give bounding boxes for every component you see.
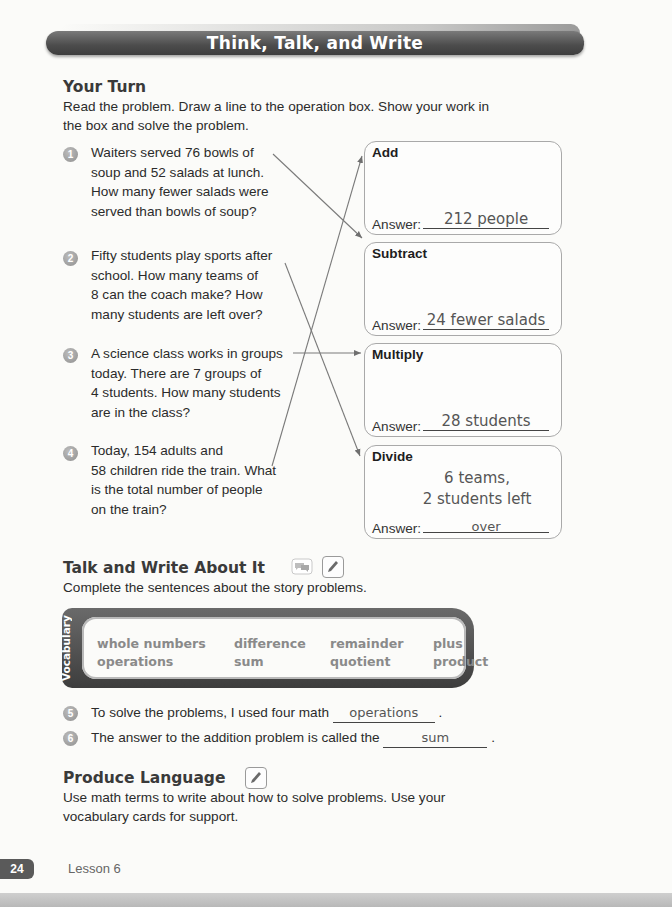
operation-title: Add: [372, 145, 398, 160]
line-problem-4-to-add: [272, 156, 362, 466]
sentence-5-number: 5: [63, 706, 78, 721]
answer-value-line-3: over: [423, 519, 549, 534]
answer-line: [423, 430, 549, 431]
answer-line: [423, 329, 549, 330]
vocab-word: quotient: [330, 654, 391, 669]
produce-language-heading: Produce Language: [63, 769, 225, 787]
operation-box-add[interactable]: Add Answer: 212 people: [364, 141, 562, 235]
page-number: 24: [0, 859, 34, 879]
produce-language-line-2: vocabulary cards for support.: [63, 807, 238, 826]
vocab-word: plus: [433, 636, 463, 651]
answer-value: 24 fewer salads: [423, 311, 549, 329]
line-problem-1-to-subtract: [273, 154, 362, 238]
answer-value-line-1: 6 teams,: [405, 469, 549, 487]
bottom-page-edge: [0, 893, 672, 907]
pencil-icon: [245, 767, 267, 789]
sentence-6: The answer to the addition problem is ca…: [91, 728, 495, 748]
answer-label: Answer:: [372, 318, 421, 333]
operation-box-divide[interactable]: Divide 6 teams, 2 students left Answer: …: [364, 445, 562, 539]
vocab-word: remainder: [330, 636, 403, 651]
operation-title: Divide: [372, 449, 413, 464]
operation-title: Multiply: [372, 347, 423, 362]
answer-label: Answer:: [372, 217, 421, 232]
pencil-icon: [322, 556, 344, 578]
vocab-word: product: [433, 654, 488, 669]
answer-line: [423, 228, 549, 229]
produce-language-line-1: Use math terms to write about how to sol…: [63, 788, 445, 807]
lesson-label: Lesson 6: [68, 861, 121, 876]
talk-bubbles-icon: [291, 557, 313, 575]
vocab-word: sum: [234, 654, 264, 669]
answer-value: 28 students: [423, 412, 549, 430]
talk-write-instructions: Complete the sentences about the story p…: [63, 578, 367, 597]
vocab-word: difference: [234, 636, 306, 651]
operation-title: Subtract: [372, 246, 427, 261]
sentence-5: To solve the problems, I used four math …: [91, 703, 442, 723]
vocab-word: operations: [97, 654, 173, 669]
vocab-word: whole numbers: [97, 636, 206, 651]
answer-value: 212 people: [423, 210, 549, 228]
answer-value-line-2: 2 students left: [405, 490, 549, 508]
sentence-5-answer[interactable]: operations: [333, 707, 435, 723]
answer-label: Answer:: [372, 419, 421, 434]
operation-box-multiply[interactable]: Multiply Answer: 28 students: [364, 343, 562, 437]
sentence-period: .: [491, 730, 495, 745]
sentence-6-answer[interactable]: sum: [383, 732, 487, 748]
sentence-6-number: 6: [63, 731, 78, 746]
talk-write-heading: Talk and Write About It: [63, 559, 265, 577]
sentence-text: The answer to the addition problem is ca…: [91, 730, 380, 745]
sentence-period: .: [439, 705, 443, 720]
operation-box-subtract[interactable]: Subtract Answer: 24 fewer salads: [364, 242, 562, 336]
answer-label: Answer:: [372, 521, 421, 536]
vocabulary-label: Vocabulary: [60, 612, 78, 684]
sentence-text: To solve the problems, I used four math: [91, 705, 329, 720]
